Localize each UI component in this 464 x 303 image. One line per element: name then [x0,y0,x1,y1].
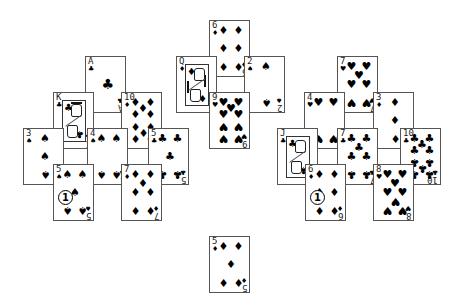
portrait-detail [67,125,78,138]
club-icon: ♣ [424,145,435,156]
card-5-of-spades[interactable]: 5♠5♠♠♠♠♠♠1 [53,164,94,221]
diamond-icon: ♦ [218,241,229,252]
diamond-icon: ♦ [233,241,244,252]
diamond-icon: ♦ [145,109,156,120]
spade-icon: ♠ [77,205,88,216]
heart-icon: ♥ [233,121,244,132]
club-icon: ♣ [424,169,435,180]
heart-icon: ♥ [361,79,372,90]
card-6-of-diamonds[interactable]: 6♦6♦♦♦♦♦♦♦1 [305,164,346,221]
spade-icon: ♠ [62,169,73,180]
diamond-icon: ♦ [233,277,244,288]
hint-number-badge: 1 [310,190,325,205]
diamond-icon: ♦ [314,169,325,180]
face-card-portrait: ♦♦ [185,64,209,106]
diamond-icon: ♦ [233,43,244,54]
club-icon: ♣ [409,145,420,156]
heart-icon: ♥ [382,205,393,216]
heart-icon: ♥ [361,97,372,108]
pip-area: ♣♣♣♣♣♣♣ [346,133,372,180]
diamond-icon: ♦ [145,187,156,198]
diamond-icon: ♦ [329,205,340,216]
club-icon: ♣ [172,169,183,180]
spade-icon: ♠ [40,133,51,144]
pip-area: ♣ [94,61,120,108]
pip-area: ♦♦♦♦♦ [218,241,244,288]
heart-icon: ♥ [218,109,229,120]
diamond-icon: ♦ [130,205,141,216]
heart-icon: ♥ [313,97,324,108]
heart-icon: ♥ [346,79,357,90]
diamond-icon: ♦ [145,205,156,216]
club-icon: ♣ [346,169,357,180]
club-icon: ♣ [157,133,168,144]
portrait-detail [291,161,302,174]
heart-icon: ♥ [218,133,229,144]
spade-icon: ♠ [40,151,51,162]
spade-icon: ♠ [96,169,107,180]
diamond-icon: ♦ [314,205,325,216]
club-icon: ♣ [361,151,372,162]
club-icon: ♣ [346,151,357,162]
diamond-icon: ♦ [329,187,340,198]
card-7-of-diamonds[interactable]: 7♦7♦♦♦♦♦♦♦♦ [121,164,162,221]
spade-icon: ♠ [111,133,122,144]
portrait-detail [190,89,201,102]
diamond-icon: ♦ [390,133,401,144]
spade-icon: ♠ [62,205,73,216]
club-icon: ♣ [102,79,113,90]
pip-area: ♠♠ [253,61,279,108]
pip-area: ♥♥♥♥♥♥♥ [346,61,372,108]
diamond-icon: ♦ [218,25,229,36]
heart-icon: ♥ [328,97,339,108]
card-9-of-hearts[interactable]: 9♥9♥♥♥♥♥♥♥♥♥♥ [209,92,250,149]
diamond-icon: ♦ [390,115,401,126]
diamond-icon: ♦ [233,61,244,72]
diamond-icon: ♦ [218,43,229,54]
club-icon: ♣ [361,169,372,180]
card-8-of-hearts[interactable]: 8♥8♥♥♥♥♥♥♥♥♥ [373,164,414,221]
card-5-of-diamonds[interactable]: 5♦5♦♦♦♦♦♦ [209,236,250,293]
heart-icon: ♥ [233,109,244,120]
spade-icon: ♠ [77,169,88,180]
spade-icon: ♠ [96,133,107,144]
card-2-of-spades[interactable]: 2♠2♠♠♠ [244,56,285,113]
pip-area: ♦♦♦♦♦♦ [218,25,244,72]
hint-number-badge: 1 [58,190,73,205]
diamond-icon: ♦ [226,259,237,270]
pip-area: ♥♥♥♥♥♥♥♥ [382,169,408,216]
diamond-icon: ♦ [329,169,340,180]
pip-area: ♦♦♦♦♦♦♦ [130,169,156,216]
diamond-icon: ♦ [218,61,229,72]
diamond-icon: ♦ [218,277,229,288]
spade-icon: ♠ [40,169,51,180]
heart-icon: ♥ [346,97,357,108]
diamond-icon: ♦ [130,133,141,144]
diamond-icon: ♦ [390,97,401,108]
club-icon: ♣ [165,151,176,162]
heart-icon: ♥ [233,133,244,144]
spade-icon: ♠ [261,97,272,108]
club-icon: ♣ [172,133,183,144]
face-card-portrait: ♣♣ [62,100,86,142]
pip-area: ♠♠♠♠ [96,133,122,180]
heart-icon: ♥ [397,205,408,216]
heart-icon: ♥ [218,121,229,132]
pip-area: ♥♥♥♥♥♥♥♥♥ [218,97,244,144]
diamond-icon: ♦ [233,25,244,36]
spade-icon: ♠ [261,61,272,72]
diamond-icon: ♦ [130,187,141,198]
diamond-icon: ♦ [130,109,141,120]
